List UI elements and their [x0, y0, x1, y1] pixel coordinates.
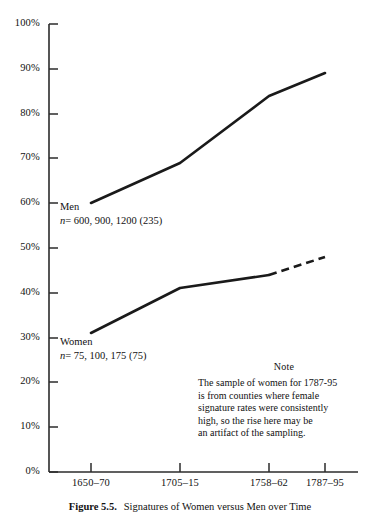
note-title: Note: [198, 361, 370, 372]
y-tick-label-70: 70%: [2, 151, 40, 162]
series-label-men-name: Men: [60, 200, 162, 214]
series-line-women-dashed: [269, 257, 325, 275]
x-tick-label-1705-15: 1705–15: [145, 477, 215, 488]
figure-caption-title: Signatures of Women versus Men over Time: [124, 501, 311, 512]
series-label-men-n: n= 600, 900, 1200 (235): [60, 214, 162, 228]
figure-caption-number: Figure 5.5.: [69, 501, 117, 512]
series-line-women-solid: [91, 275, 269, 333]
y-tick-label-0: 0%: [2, 465, 40, 476]
figure-chart-signatures: 100% 90% 80% 70% 60% 50% 40% 30% 20% 10%…: [0, 0, 380, 523]
series-annotation-men: Men n= 600, 900, 1200 (235): [60, 200, 162, 227]
y-tick-label-10: 10%: [2, 420, 40, 431]
note-line-1: The sample of women for 1787-95: [198, 377, 370, 390]
series-label-men-n-text: = 600, 900, 1200 (235): [65, 215, 162, 226]
y-tick-label-40: 40%: [2, 286, 40, 297]
note-line-2: is from counties where female: [198, 390, 370, 403]
y-tick-label-80: 80%: [2, 107, 40, 118]
chart-plot-area: [0, 0, 380, 523]
y-tick-label-30: 30%: [2, 331, 40, 342]
x-tick-label-1650-70: 1650–70: [56, 477, 126, 488]
figure-caption: Figure 5.5.Signatures of Women versus Me…: [0, 501, 380, 512]
y-tick-label-60: 60%: [2, 196, 40, 207]
y-tick-label-50: 50%: [2, 241, 40, 252]
series-line-men: [91, 73, 325, 203]
note-line-4: high, so the rise here may be: [198, 415, 370, 428]
x-axis-ticks: [91, 463, 325, 472]
series-annotation-women: Women n= 75, 100, 175 (75): [60, 335, 146, 362]
series-label-women-name: Women: [60, 335, 146, 349]
y-axis-ticks: [49, 24, 58, 472]
y-tick-label-90: 90%: [2, 62, 40, 73]
note-body: The sample of women for 1787-95 is from …: [198, 377, 370, 440]
series-label-women-n: n= 75, 100, 175 (75): [60, 349, 146, 363]
y-tick-label-100: 100%: [2, 17, 40, 28]
series-label-women-n-text: = 75, 100, 175 (75): [65, 350, 146, 361]
note-annotation: Note The sample of women for 1787-95 is …: [198, 361, 370, 440]
y-tick-label-20: 20%: [2, 375, 40, 386]
note-line-3: signature rates were consistently: [198, 402, 370, 415]
x-tick-label-1787-95: 1787–95: [290, 477, 360, 488]
note-line-5: an artifact of the sampling.: [198, 427, 370, 440]
